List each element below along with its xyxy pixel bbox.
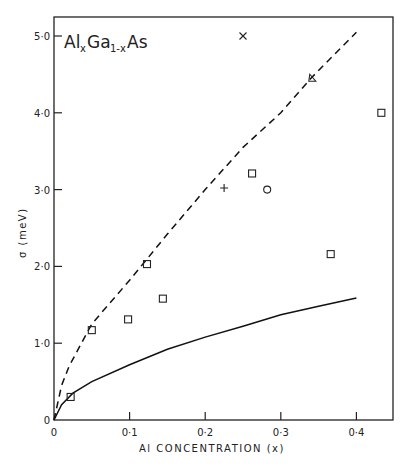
formula-sub-x: x: [80, 43, 86, 54]
y-tick-label: 4·0: [34, 108, 50, 119]
x-marker: [240, 33, 247, 40]
data-markers: [67, 33, 385, 401]
x-tick-label: 0·4: [348, 427, 364, 438]
formula-sub-1x: 1-x: [110, 43, 126, 54]
square-marker: [327, 251, 334, 258]
circle-marker: [264, 186, 271, 193]
formula-al: Al: [64, 32, 80, 52]
y-axis-title: σ (meV): [17, 207, 28, 258]
x-tick-label: 0: [51, 427, 57, 438]
chart: 00·10·20·30·401·02·03·04·05·0 Al x Ga 1-…: [0, 0, 407, 464]
y-tick-label: 2·0: [34, 261, 50, 272]
square-marker: [159, 295, 166, 302]
x-tick-label: 0·1: [122, 427, 138, 438]
formula-as: As: [127, 32, 148, 52]
dashed-curve: [54, 32, 356, 420]
square-marker: [378, 109, 385, 116]
plus-marker: [220, 184, 228, 192]
y-tick-label: 5·0: [34, 31, 50, 42]
x-axis-title: Al CONCENTRATION (x): [139, 443, 285, 454]
x-tick-label: 0·2: [197, 427, 213, 438]
y-tick-label: 0: [44, 415, 50, 426]
axis-ticks: 00·10·20·30·401·02·03·04·05·0: [34, 31, 364, 438]
y-tick-label: 1·0: [34, 338, 50, 349]
x-tick-label: 0·3: [273, 427, 289, 438]
plot-frame: [54, 17, 393, 420]
square-marker: [249, 170, 256, 177]
formula-ga: Ga: [87, 32, 111, 52]
square-marker: [125, 316, 132, 323]
y-tick-label: 3·0: [34, 185, 50, 196]
curves: [54, 32, 356, 420]
